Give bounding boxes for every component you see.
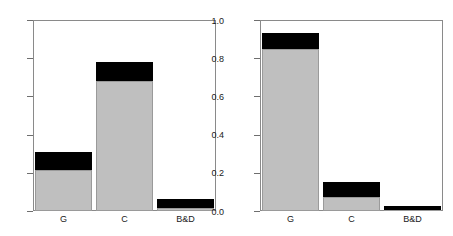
x-axis-tick-label: B&D xyxy=(156,215,216,224)
bar-bandd xyxy=(384,206,441,211)
bar-segment-gray xyxy=(157,208,214,211)
bar-bandd xyxy=(157,199,214,211)
y-axis-tick: 0.8 xyxy=(227,58,260,59)
y-axis-tick: 0.6 xyxy=(0,96,33,97)
y-axis-tick-label: 0.8 xyxy=(211,54,224,63)
x-axis-tick-label: C xyxy=(95,215,155,224)
bar-segment-black xyxy=(384,206,441,210)
bar-g xyxy=(35,152,92,211)
y-axis-tick-label: 0.2 xyxy=(211,169,224,178)
bar-segment-gray xyxy=(96,81,153,211)
y-axis-tick-mark xyxy=(254,211,260,212)
y-axis-tick: 0.6 xyxy=(227,96,260,97)
x-axis-tick-label: B&D xyxy=(383,215,443,224)
bar-group-right xyxy=(260,20,443,211)
figure: 0.00.20.40.60.81.0 GCB&D 0.00.20.40.60.8… xyxy=(0,0,453,236)
y-axis-tick: 0.0 xyxy=(227,211,260,212)
bar-segment-gray xyxy=(323,197,380,211)
y-axis-tick-label: 0.0 xyxy=(211,207,224,216)
x-axis-tick-label: C xyxy=(322,215,382,224)
bar-c xyxy=(323,182,380,211)
y-axis-tick: 1.0 xyxy=(227,20,260,21)
y-axis-tick-label: 1.0 xyxy=(211,16,224,25)
y-axis-tick-mark xyxy=(27,211,33,212)
y-axis-tick: 0.0 xyxy=(0,211,33,212)
y-axis-tick: 0.4 xyxy=(227,135,260,136)
bar-segment-black xyxy=(323,182,380,196)
x-axis-tick-label: G xyxy=(34,215,94,224)
y-axis-tick: 0.8 xyxy=(0,58,33,59)
y-axis-tick-label: 0.6 xyxy=(211,92,224,101)
y-axis-tick: 0.2 xyxy=(0,173,33,174)
bar-c xyxy=(96,62,153,211)
bar-segment-black xyxy=(96,62,153,81)
bar-segment-gray xyxy=(262,49,319,211)
bar-segment-black xyxy=(262,33,319,48)
bar-segment-black xyxy=(35,152,92,170)
y-axis-tick: 1.0 xyxy=(0,20,33,21)
chart-panel-left: 0.00.20.40.60.81.0 GCB&D xyxy=(0,0,226,236)
x-axis-tick-label: G xyxy=(261,215,321,224)
y-axis-tick: 0.4 xyxy=(0,135,33,136)
bar-segment-gray xyxy=(35,170,92,211)
chart-panel-right: 0.00.20.40.60.81.0 GCB&D xyxy=(227,0,453,236)
bar-g xyxy=(262,33,319,211)
bar-segment-black xyxy=(157,199,214,208)
y-axis-tick-label: 0.4 xyxy=(211,131,224,140)
bar-group-left xyxy=(33,20,216,211)
y-axis-tick: 0.2 xyxy=(227,173,260,174)
